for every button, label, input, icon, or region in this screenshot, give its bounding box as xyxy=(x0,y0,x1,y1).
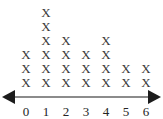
mark-stack-2: XXXX xyxy=(57,34,75,90)
x-mark: X xyxy=(61,62,70,76)
mark-stack-4: XXXX xyxy=(97,34,115,90)
x-mark: X xyxy=(41,20,50,34)
tick-label-6: 6 xyxy=(137,104,155,119)
mark-stack-5: XX xyxy=(117,62,135,90)
mark-stack-6: XX xyxy=(137,62,155,90)
axis-line xyxy=(14,96,148,98)
x-mark: X xyxy=(41,62,50,76)
x-mark: X xyxy=(101,48,110,62)
x-mark: X xyxy=(81,76,90,90)
x-mark: X xyxy=(81,48,90,62)
x-mark: X xyxy=(41,6,50,20)
x-mark: X xyxy=(121,62,130,76)
x-mark: X xyxy=(81,62,90,76)
left-arrow-icon xyxy=(2,90,15,104)
mark-stacks: XXXXXXXXXXXXXXXXXXXXXXXX xyxy=(0,0,163,90)
tick-label-3: 3 xyxy=(77,104,95,119)
x-mark: X xyxy=(61,48,70,62)
dot-plot: XXXXXXXXXXXXXXXXXXXXXXXX 0123456 xyxy=(0,0,163,119)
x-mark: X xyxy=(21,62,30,76)
tick-label-5: 5 xyxy=(117,104,135,119)
x-mark: X xyxy=(41,34,50,48)
tick-label-0: 0 xyxy=(17,104,35,119)
x-mark: X xyxy=(21,48,30,62)
x-mark: X xyxy=(121,76,130,90)
mark-stack-3: XXX xyxy=(77,48,95,90)
x-mark: X xyxy=(61,34,70,48)
x-mark: X xyxy=(41,48,50,62)
x-mark: X xyxy=(141,76,150,90)
x-mark: X xyxy=(141,62,150,76)
tick-label-2: 2 xyxy=(57,104,75,119)
x-mark: X xyxy=(61,76,70,90)
axis-tick-labels: 0123456 xyxy=(0,104,163,119)
mark-stack-0: XXX xyxy=(17,48,35,90)
number-line-axis xyxy=(0,90,163,104)
x-mark: X xyxy=(21,76,30,90)
mark-stack-1: XXXXXX xyxy=(37,6,55,90)
x-mark: X xyxy=(101,76,110,90)
x-mark: X xyxy=(101,62,110,76)
tick-label-1: 1 xyxy=(37,104,55,119)
x-mark: X xyxy=(41,76,50,90)
x-mark: X xyxy=(101,34,110,48)
right-arrow-icon xyxy=(148,90,161,104)
tick-label-4: 4 xyxy=(97,104,115,119)
